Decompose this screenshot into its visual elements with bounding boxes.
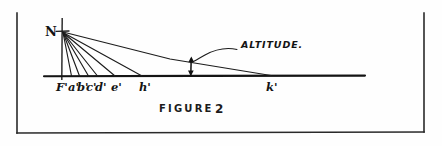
figure-caption-number: 2 bbox=[215, 102, 223, 116]
point-label-e-prime: e' bbox=[111, 80, 122, 94]
altitude-annotation-label: ALTITUDE. bbox=[240, 39, 303, 50]
figure-2-diagram: N ALTITUDE. F' a' b' c' d' e' h' k' FIGU… bbox=[0, 0, 442, 146]
point-label-F-prime: F' bbox=[55, 80, 68, 94]
figure-caption-word: FIGURE bbox=[159, 103, 214, 114]
apex-label-N: N bbox=[45, 24, 57, 39]
baseline-point-labels: F' a' b' c' d' e' h' k' bbox=[55, 80, 278, 94]
point-label-h-prime: h' bbox=[139, 80, 151, 94]
ray-to-k-prime bbox=[63, 32, 271, 76]
ground-baseline bbox=[44, 76, 365, 77]
ray-to-h-prime bbox=[63, 33, 142, 77]
frame-bottom-border bbox=[17, 132, 424, 133]
altitude-leader-line bbox=[192, 49, 237, 63]
ray-fan bbox=[63, 32, 271, 76]
point-label-k-prime: k' bbox=[266, 80, 278, 94]
point-label-d-prime: d' bbox=[95, 80, 107, 94]
figure-page: N ALTITUDE. F' a' b' c' d' e' h' k' FIGU… bbox=[0, 0, 442, 146]
altitude-measure-arrow bbox=[188, 56, 194, 76]
